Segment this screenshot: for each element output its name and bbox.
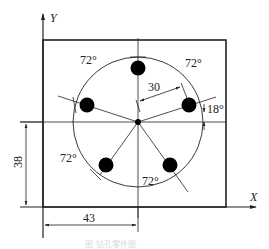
dimension-43-label: 43 [83, 211, 95, 225]
x-axis-label: X [249, 190, 258, 204]
hole-18 [182, 98, 197, 113]
angle-label-top-right: 72° [185, 56, 202, 70]
hole-90 [131, 61, 146, 76]
hole-162 [80, 98, 95, 113]
angle-label-top-left: 72° [80, 53, 97, 67]
radius-label: 30 [148, 80, 160, 94]
hole-306 [163, 158, 178, 173]
dimension-38-label: 38 [11, 156, 25, 168]
radius-dimension [136, 83, 189, 112]
hole-234 [99, 158, 114, 173]
angle-label-bottom: 72° [142, 174, 159, 188]
figure-caption: 图 钻孔零件图 [85, 239, 136, 249]
y-axis-label: Y [50, 11, 58, 25]
start-angle-label: 18° [207, 102, 224, 116]
hole-pattern-drawing: Y X 30 18° [0, 0, 269, 249]
center-point [135, 119, 141, 125]
angle-label-bottom-left: 72° [60, 151, 77, 165]
